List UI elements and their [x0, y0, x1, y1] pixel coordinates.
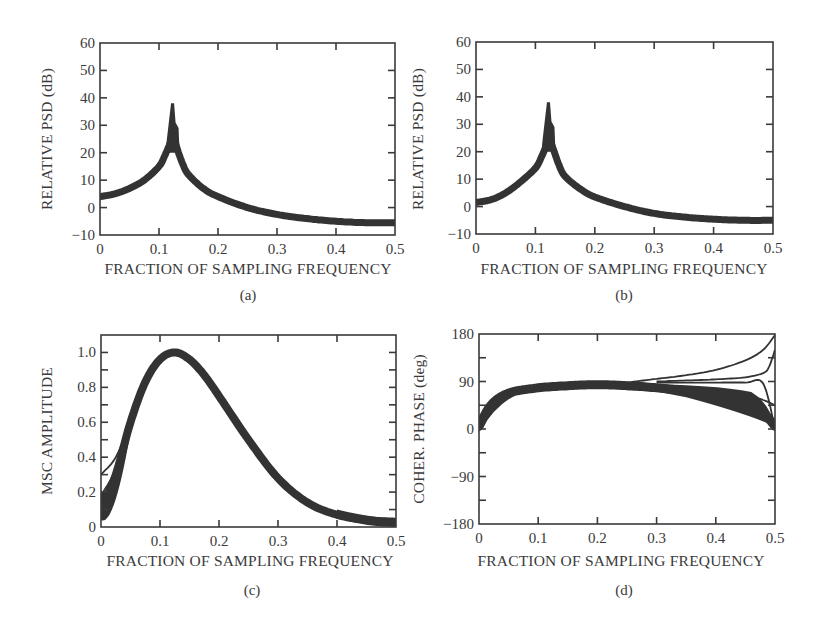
- panel-d-caption: (d): [615, 582, 633, 599]
- panel-c-caption: (c): [244, 582, 261, 599]
- y-tick-label: −90: [451, 469, 474, 485]
- y-tick-label: 50: [456, 61, 471, 77]
- peak-spike: [166, 103, 180, 152]
- phase-rise-band: [479, 390, 526, 429]
- x-tick-label: 0: [97, 533, 105, 549]
- y-tick-label: 1.0: [77, 344, 96, 360]
- y-tick-label: 0.6: [77, 414, 96, 430]
- high-freq-spread: [337, 510, 396, 527]
- panel-b-x-axis-title: FRACTION OF SAMPLING FREQUENCY: [480, 260, 767, 277]
- y-tick-label: −10: [72, 227, 95, 243]
- ensemble-band: [476, 138, 773, 221]
- x-tick-label: 0.5: [764, 240, 783, 256]
- panel-a-psd: 00.10.20.30.40.5−100102030405060 FRACTIO…: [38, 35, 404, 304]
- ensemble-band: [101, 353, 396, 522]
- y-tick-label: 90: [459, 374, 474, 390]
- panel-d-phase: 00.10.20.30.40.5−180−90090180 FRACTION O…: [410, 326, 784, 599]
- y-tick-label: 10: [456, 171, 471, 187]
- x-tick-label: 0.1: [150, 241, 169, 257]
- x-tick-label: 0: [472, 240, 480, 256]
- x-tick-label: 0.1: [151, 533, 170, 549]
- panel-c-x-axis-title: FRACTION OF SAMPLING FREQUENCY: [106, 552, 393, 569]
- x-tick-label: 0.3: [645, 240, 664, 256]
- y-tick-label: 30: [80, 117, 95, 133]
- panel-b-curves: [476, 102, 773, 220]
- y-tick-label: 30: [456, 116, 471, 132]
- y-tick-label: 20: [80, 145, 95, 161]
- x-tick-label: 0: [475, 530, 483, 546]
- x-tick-label: 0.5: [766, 530, 785, 546]
- panel-c-ticks: [101, 335, 396, 527]
- x-tick-label: 0.2: [210, 533, 229, 549]
- y-tick-label: 40: [80, 90, 95, 106]
- x-tick-label: 0.2: [588, 530, 607, 546]
- x-tick-label: 0.3: [269, 533, 288, 549]
- x-tick-label: 0.3: [647, 530, 666, 546]
- panel-a-curves: [100, 103, 395, 222]
- panel-a-x-axis-title: FRACTION OF SAMPLING FREQUENCY: [104, 260, 391, 277]
- y-tick-label: 60: [80, 35, 95, 51]
- x-tick-label: 0.4: [706, 530, 725, 546]
- x-tick-label: 0.1: [526, 240, 545, 256]
- panel-c-msc: 00.10.20.30.40.500.20.40.60.81.0 FRACTIO…: [38, 335, 405, 599]
- x-tick-label: 0.5: [386, 241, 405, 257]
- y-tick-label: 0: [464, 199, 472, 215]
- y-tick-label: 0: [89, 519, 97, 535]
- panel-d-ticks: [479, 334, 775, 524]
- panel-d-curves: [479, 335, 775, 429]
- x-tick-label: 0.1: [529, 530, 548, 546]
- y-tick-label: 20: [456, 144, 471, 160]
- ensemble-band: [100, 136, 395, 223]
- y-tick-label: −180: [443, 516, 474, 532]
- panel-b-psd: 00.10.20.30.40.5−100102030405060 FRACTIO…: [409, 34, 782, 304]
- phase-fan-band: [627, 384, 775, 427]
- y-tick-label: 60: [456, 34, 471, 50]
- y-tick-label: 0.8: [77, 379, 96, 395]
- x-tick-label: 0.2: [209, 241, 228, 257]
- y-tick-label: 50: [80, 62, 95, 78]
- panel-b-caption: (b): [615, 287, 633, 304]
- y-tick-label: 0: [88, 200, 96, 216]
- y-tick-label: 0.2: [77, 484, 96, 500]
- panel-b-y-axis-title: RELATIVE PSD (dB): [409, 68, 427, 210]
- x-tick-label: 0.4: [704, 240, 723, 256]
- y-tick-label: 0: [467, 421, 475, 437]
- y-tick-label: 40: [456, 89, 471, 105]
- figure: 00.10.20.30.40.5−100102030405060 FRACTIO…: [0, 0, 817, 626]
- panel-c-y-axis-title: MSC AMPLITUDE: [38, 367, 55, 495]
- x-tick-label: 0.4: [327, 241, 346, 257]
- panel-d-x-axis-title: FRACTION OF SAMPLING FREQUENCY: [477, 552, 764, 569]
- x-tick-label: 0.4: [328, 533, 347, 549]
- y-tick-label: 0.4: [77, 449, 96, 465]
- panel-c-frame: [101, 335, 396, 527]
- x-tick-label: 0.3: [268, 241, 287, 257]
- panel-d-frame: [479, 334, 775, 524]
- panel-c-curves: [101, 353, 396, 528]
- y-tick-label: 180: [452, 326, 475, 342]
- peak-spike: [541, 102, 555, 151]
- x-tick-label: 0: [96, 241, 104, 257]
- x-tick-label: 0.2: [585, 240, 604, 256]
- panel-d-y-axis-title: COHER. PHASE (deg): [410, 354, 428, 504]
- panel-a-caption: (a): [240, 287, 257, 304]
- y-tick-label: −10: [448, 226, 471, 242]
- panel-a-y-axis-title: RELATIVE PSD (dB): [38, 68, 56, 210]
- x-tick-label: 0.5: [387, 533, 406, 549]
- y-tick-label: 10: [80, 172, 95, 188]
- panel-d-tick-labels: 00.10.20.30.40.5−180−90090180: [443, 326, 784, 546]
